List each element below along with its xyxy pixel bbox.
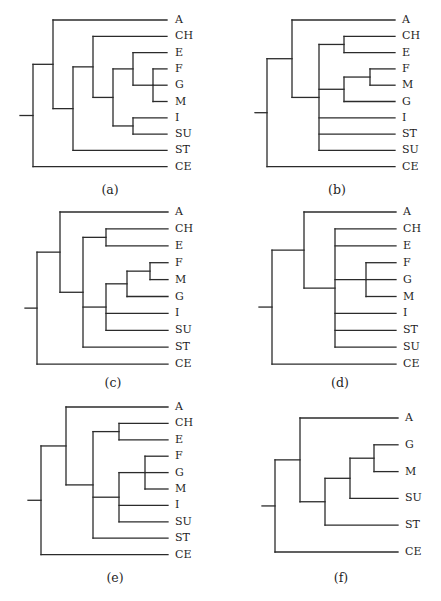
leaf-label-f: F <box>403 256 411 269</box>
leaf-label-ce: CE <box>175 160 191 173</box>
leaf-label-g: G <box>175 466 184 479</box>
leaf-label-m: M <box>402 78 413 91</box>
leaf-label-su: SU <box>402 143 419 156</box>
leaf-label-f: F <box>402 62 410 75</box>
leaf-label-st: ST <box>402 127 418 140</box>
leaf-label-i: I <box>175 111 179 124</box>
leaf-label-e: E <box>403 239 411 252</box>
leaf-label-e: E <box>175 46 183 59</box>
caption-d: (d) <box>331 375 349 390</box>
leaf-label-ch: CH <box>403 222 421 235</box>
leaf-label-su: SU <box>403 340 420 353</box>
leaf-label-ch: CH <box>175 29 193 42</box>
leaf-label-ce: CE <box>175 357 191 370</box>
leaf-label-g: G <box>402 95 411 108</box>
leaf-label-m: M <box>405 465 416 478</box>
leaf-label-ce: CE <box>402 160 418 173</box>
tree-panel-c: (c) ACHEFMGISUSTCE <box>25 205 193 390</box>
caption-f: (f) <box>334 570 348 585</box>
phylogenetic-tree-figure: (a) ACHEFGMISUSTCE (b) ACHEFMGISTSUCE (c… <box>0 0 441 601</box>
tree-panel-d: (d) ACHEFGMISTSUCE <box>259 205 421 390</box>
leaf-label-ce: CE <box>405 545 421 558</box>
leaf-label-ch: CH <box>402 29 420 42</box>
leaf-label-m: M <box>403 290 414 303</box>
leaf-label-g: G <box>175 290 184 303</box>
leaf-label-f: F <box>175 62 183 75</box>
tree-panel-a: (a) ACHEFGMISUSTCE <box>20 13 193 197</box>
caption-e: (e) <box>106 570 123 585</box>
leaf-label-a: A <box>174 205 184 218</box>
leaf-label-m: M <box>175 273 186 286</box>
leaf-label-f: F <box>175 449 183 462</box>
leaf-label-i: I <box>402 111 406 124</box>
leaf-label-e: E <box>402 46 410 59</box>
leaf-label-m: M <box>175 482 186 495</box>
tree-panel-f: (f) AGMSUSTCE <box>262 411 422 585</box>
caption-a: (a) <box>101 182 118 197</box>
leaf-label-ch: CH <box>175 222 193 235</box>
caption-c: (c) <box>105 375 122 390</box>
caption-b: (b) <box>328 182 346 197</box>
leaf-label-st: ST <box>403 323 419 336</box>
leaf-label-a: A <box>174 13 184 26</box>
leaf-label-su: SU <box>175 515 192 528</box>
leaf-label-su: SU <box>175 127 192 140</box>
leaf-label-su: SU <box>175 323 192 336</box>
leaf-label-st: ST <box>175 143 191 156</box>
leaf-label-g: G <box>405 438 414 451</box>
leaf-label-i: I <box>175 498 179 511</box>
leaf-label-g: G <box>175 78 184 91</box>
leaf-label-a: A <box>174 400 184 413</box>
leaf-label-a: A <box>404 411 414 424</box>
leaf-label-su: SU <box>405 491 422 504</box>
leaf-label-e: E <box>175 433 183 446</box>
tree-panel-e: (e) ACHEFGMISUSTCE <box>28 400 193 585</box>
leaf-label-i: I <box>175 306 179 319</box>
leaf-label-st: ST <box>175 340 191 353</box>
leaf-label-ch: CH <box>175 416 193 429</box>
leaf-label-i: I <box>403 306 407 319</box>
leaf-label-a: A <box>401 13 411 26</box>
leaf-label-ce: CE <box>403 357 419 370</box>
leaf-label-m: M <box>175 95 186 108</box>
leaf-label-e: E <box>175 239 183 252</box>
leaf-label-g: G <box>403 273 412 286</box>
leaf-label-f: F <box>175 256 183 269</box>
tree-panel-b: (b) ACHEFMGISTSUCE <box>255 13 420 197</box>
leaf-label-st: ST <box>175 531 191 544</box>
leaf-label-a: A <box>402 205 412 218</box>
leaf-label-st: ST <box>405 518 421 531</box>
leaf-label-ce: CE <box>175 548 191 561</box>
